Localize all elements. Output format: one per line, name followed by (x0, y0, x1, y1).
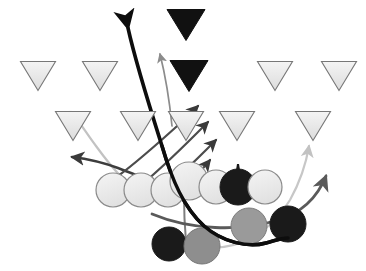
lineman-7[interactable] (248, 170, 282, 204)
play-diagram-canvas (0, 0, 366, 271)
play-diagram-svg (0, 0, 366, 271)
player-gray-lower-right[interactable] (231, 208, 267, 244)
player-black-lower-left[interactable] (152, 227, 186, 261)
